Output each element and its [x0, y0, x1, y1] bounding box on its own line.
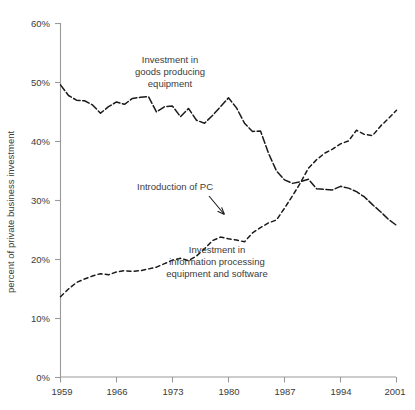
y-tick-label-0: 0% [36, 372, 50, 383]
y-tick-label-50: 50% [31, 77, 51, 88]
annotation-pc-label: Introduction of PC [137, 181, 213, 192]
x-tick-label-1980: 1980 [218, 386, 239, 397]
y-tick-label-60: 60% [31, 18, 51, 29]
y-axis-title: percent of private business investment [5, 131, 16, 293]
series-line-goods-producing-equipment [61, 85, 397, 225]
annotation-introduction-of-pc: Introduction of PC [137, 181, 225, 215]
x-tick-label-1959: 1959 [51, 386, 72, 397]
annotation-it-line-3: equipment and software [166, 268, 267, 279]
y-axis-ticks [55, 24, 61, 378]
annotation-pc-arrow-line [209, 196, 224, 214]
x-tick-label-2001: 2001 [384, 386, 405, 397]
y-tick-label-20: 20% [31, 254, 51, 265]
y-tick-label-10: 10% [31, 313, 51, 324]
x-tick-label-1987: 1987 [274, 386, 295, 397]
x-tick-label-1994: 1994 [330, 386, 351, 397]
annotation-goods-producing: Investment in goods producing equipment [135, 54, 205, 89]
annotation-goods-line-1: Investment in [142, 54, 199, 65]
x-tick-label-1966: 1966 [106, 386, 127, 397]
chart-container: 60% 50% 40% 30% 20% 10% 0% 1959 1966 197… [0, 0, 415, 410]
annotation-it-line-1: Investment in [189, 244, 246, 255]
annotation-information-processing: Investment in information processing equ… [166, 244, 267, 279]
x-tick-label-1973: 1973 [162, 386, 183, 397]
y-tick-label-40: 40% [31, 136, 51, 147]
x-axis-ticks [61, 377, 397, 383]
annotation-it-line-2: information processing [169, 256, 265, 267]
y-tick-label-30: 30% [31, 195, 51, 206]
annotation-goods-line-3: equipment [148, 78, 193, 89]
line-chart: 60% 50% 40% 30% 20% 10% 0% 1959 1966 197… [0, 0, 415, 410]
annotation-goods-line-2: goods producing [135, 66, 205, 77]
